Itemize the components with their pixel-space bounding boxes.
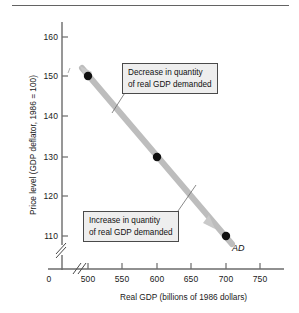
axis-hash-mark (68, 68, 70, 73)
decrease-in-quantity-callout: Decrease in quantity of real GDP demande… (122, 63, 218, 94)
x-tick-label-600: 600 (147, 274, 167, 284)
x-tick-label-500: 500 (78, 274, 98, 284)
x-tick-label-750: 750 (250, 274, 270, 284)
y-tick-label-110: 110 (36, 231, 58, 241)
aggregate-demand-chart-figure: 160 150 140 130 120 110 0 500 550 600 65… (0, 0, 299, 313)
increase-in-quantity-callout: Increase in quantity of real GDP demande… (83, 211, 179, 242)
data-point-500-150 (84, 72, 92, 80)
data-point-700-110 (222, 232, 230, 240)
decrease-callout-line-2: of real GDP demanded (128, 79, 212, 91)
y-tick-label-150: 150 (36, 71, 58, 81)
decrease-callout-line-1: Decrease in quantity (128, 67, 212, 79)
x-tick-label-650: 650 (181, 274, 201, 284)
x-tick-label-550: 550 (112, 274, 132, 284)
increase-callout-line-2: of real GDP demanded (89, 227, 173, 239)
ad-curve-label: AD (232, 243, 245, 253)
y-axis-title: Price level (GDP deflator, 1986 = 100) (28, 50, 38, 240)
x-tick-label-700: 700 (216, 274, 236, 284)
y-tick-label-120: 120 (36, 191, 58, 201)
y-tick-label-160: 160 (36, 32, 58, 42)
y-tick-label-140: 140 (36, 111, 58, 121)
x-tick-label-0: 0 (44, 274, 54, 284)
increase-callout-line-1: Increase in quantity (89, 215, 173, 227)
x-axis-title: Real GDP (billions of 1986 dollars) (120, 292, 247, 302)
y-tick-label-130: 130 (36, 152, 58, 162)
data-point-600-130 (153, 153, 161, 161)
